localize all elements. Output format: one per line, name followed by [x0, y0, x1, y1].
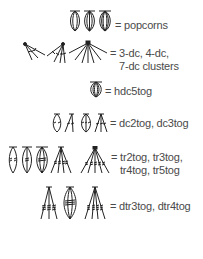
- popcorn-3-icon: [69, 10, 81, 32]
- tr3tog-oval-icon: [21, 146, 33, 174]
- legend-row-dtr-tog: = dtr3tog, dtr4tog: [0, 184, 203, 234]
- dc3tog-fan-icon: [94, 113, 108, 133]
- dc2tog-fan-icon: [64, 113, 76, 133]
- dc3tog-oval-icon: [80, 113, 92, 133]
- tr4tog-fan-icon: [50, 146, 72, 174]
- legend-row-tr-tog: = tr2tog, tr3tog, tr4tog, tr5tog: [0, 140, 203, 184]
- dtr-tog-label: = dtr3tog, dtr4tog: [110, 200, 191, 212]
- popcorn-4-icon: [83, 10, 96, 32]
- tr-tog-label-line1: = tr2tog, tr3tog,: [111, 151, 183, 163]
- dtr4tog-oval-icon: [62, 186, 78, 220]
- popcorn-5-icon: [98, 10, 112, 32]
- hdc5tog-icon: [89, 81, 103, 98]
- tr4tog-oval-icon: [35, 146, 49, 174]
- dtr3tog-fan-icon: [40, 186, 58, 220]
- dtr4tog-fan-icon: [84, 186, 106, 220]
- dc2tog-oval-icon: [52, 113, 62, 133]
- legend-row-clusters: = 3-dc, 4-dc, 7-dc clusters: [0, 36, 203, 76]
- 4-dc-cluster-icon: [46, 42, 68, 64]
- tr5tog-fan-icon: [80, 146, 110, 174]
- legend-row-popcorns: = popcorns: [0, 0, 203, 36]
- legend-row-hdc5tog: = hdc5tog: [0, 78, 203, 108]
- dc-tog-label: = dc2tog, dc3tog: [110, 117, 188, 129]
- popcorns-label: = popcorns: [115, 19, 168, 31]
- legend-row-dc-tog: = dc2tog, dc3tog: [0, 108, 203, 140]
- clusters-label-line1: = 3-dc, 4-dc,: [110, 47, 169, 59]
- 3-dc-cluster-icon: [22, 42, 46, 62]
- tr2tog-oval-icon: [8, 146, 18, 174]
- clusters-label-line2: 7-dc clusters: [119, 60, 179, 72]
- hdc5tog-label: = hdc5tog: [105, 85, 152, 97]
- 7-dc-cluster-icon: [68, 40, 108, 64]
- tr-tog-label-line2: tr4tog, tr5tog: [120, 164, 180, 176]
